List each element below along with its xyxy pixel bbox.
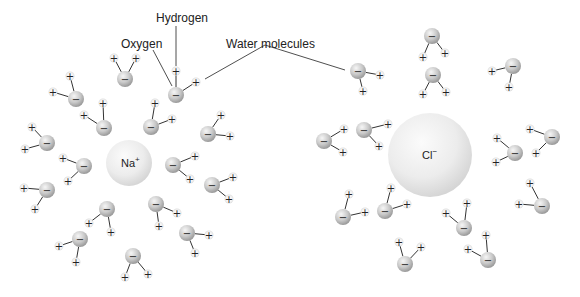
water-molecule: −++: [442, 198, 473, 237]
hydrogen-positive-charge-icon: +: [532, 148, 540, 159]
hydrogen-positive-charge-icon: +: [28, 122, 36, 133]
hydrogen-positive-charge-icon: +: [151, 98, 159, 109]
oxygen-negative-charge-icon: −: [511, 148, 519, 159]
oxygen-negative-charge-icon: −: [204, 129, 212, 140]
hydrogen-positive-charge-icon: +: [110, 53, 118, 64]
hydrogen-positive-charge-icon: +: [225, 194, 233, 205]
hydrogen-positive-charge-icon: +: [229, 172, 237, 183]
hydrogen-positive-charge-icon: +: [492, 157, 500, 168]
hydrogen-positive-charge-icon: +: [403, 199, 411, 210]
hydrogen-positive-charge-icon: +: [191, 248, 199, 259]
oxygen-negative-charge-icon: −: [172, 90, 180, 101]
oxygen-negative-charge-icon: −: [320, 136, 328, 147]
oxygen-negative-charge-icon: −: [43, 185, 51, 196]
water-molecule: −++: [168, 66, 201, 104]
oxygen-negative-charge-icon: −: [339, 212, 347, 223]
water-molecules-label: Water molecules: [226, 37, 315, 51]
hydrogen-positive-charge-icon: +: [361, 207, 369, 218]
hydrogen-positive-charge-icon: +: [441, 48, 449, 59]
covalent-bond: [28, 145, 39, 148]
water-molecule: −++: [80, 98, 113, 137]
hydrogen-positive-charge-icon: +: [121, 272, 129, 283]
water-molecule: −++: [59, 153, 93, 187]
hydrogen-positive-charge-icon: +: [49, 87, 57, 98]
hydrogen-positive-charge-icon: +: [384, 119, 392, 130]
water-molecule: −++: [204, 172, 238, 205]
water-molecule: −++: [526, 124, 561, 159]
hydrogen-positive-charge-icon: +: [72, 257, 80, 268]
sodium-ion: Na+: [106, 140, 152, 186]
water-molecule: −++: [419, 67, 451, 100]
covalent-bond: [522, 204, 534, 205]
water-molecule: −++: [419, 28, 450, 63]
hydrogen-positive-charge-icon: +: [505, 82, 513, 93]
hydrogen-positive-charge-icon: +: [80, 110, 88, 121]
water-molecule: −++: [121, 248, 153, 283]
hydrogen-positive-charge-icon: +: [172, 66, 180, 77]
water-molecule: −++: [488, 58, 522, 93]
hydrogen-positive-charge-icon: +: [186, 174, 194, 185]
hydrogen-positive-charge-icon: +: [20, 183, 28, 194]
hydrogen-positive-charge-icon: +: [21, 144, 29, 155]
covalent-bond: [533, 130, 544, 134]
hydrogen-positive-charge-icon: +: [419, 89, 427, 100]
water-molecule: −++: [49, 71, 85, 108]
hydrogen-positive-charge-icon: +: [55, 241, 63, 252]
oxygen-negative-charge-icon: −: [548, 132, 556, 143]
oxygen-negative-charge-icon: −: [121, 74, 129, 85]
oxygen-negative-charge-icon: −: [429, 70, 437, 81]
chloride-ion: Cl−: [388, 113, 472, 197]
hydrogen-positive-charge-icon: +: [59, 153, 67, 164]
water-molecule: −++: [143, 98, 177, 136]
hydrogen-label: Hydrogen: [156, 11, 208, 25]
oxygen-negative-charge-icon: −: [43, 138, 51, 149]
hydrogen-positive-charge-icon: +: [345, 189, 353, 200]
oxygen-negative-charge-icon: −: [360, 125, 368, 136]
water-molecule: −++: [350, 63, 385, 97]
oxygen-negative-charge-icon: −: [80, 161, 88, 172]
sodium-symbol: Na: [121, 157, 136, 169]
hydrogen-positive-charge-icon: +: [442, 87, 450, 98]
covalent-bond: [62, 242, 72, 245]
hydrogen-positive-charge-icon: +: [463, 198, 471, 209]
hydrogen-positive-charge-icon: +: [464, 244, 472, 255]
oxygen-negative-charge-icon: −: [147, 122, 155, 133]
hydrogen-positive-charge-icon: +: [99, 98, 107, 109]
hydrogen-positive-charge-icon: +: [107, 227, 115, 238]
hydrogen-positive-charge-icon: +: [515, 199, 523, 210]
hydrogen-positive-charge-icon: +: [493, 133, 501, 144]
hydrogen-positive-charge-icon: +: [226, 131, 234, 142]
hydrogen-positive-charge-icon: +: [442, 208, 450, 219]
hydrogen-positive-charge-icon: +: [376, 70, 384, 81]
hydrogen-positive-charge-icon: +: [217, 110, 225, 121]
oxygen-negative-charge-icon: −: [460, 223, 468, 234]
hydrogen-positive-charge-icon: +: [168, 114, 176, 125]
hydrogen-positive-charge-icon: +: [526, 178, 534, 189]
oxygen-negative-charge-icon: −: [538, 201, 546, 212]
hydrogen-positive-charge-icon: +: [173, 208, 181, 219]
water-molecule: −++: [515, 178, 551, 215]
oxygen-negative-charge-icon: −: [509, 61, 517, 72]
oxygen-negative-charge-icon: −: [72, 94, 80, 105]
water-molecule: −++: [492, 133, 524, 168]
hydrogen-positive-charge-icon: +: [191, 151, 199, 162]
oxygen-negative-charge-icon: −: [208, 180, 216, 191]
hydrogen-positive-charge-icon: +: [417, 242, 425, 253]
hydrogen-positive-charge-icon: +: [205, 230, 213, 241]
oxygen-negative-charge-icon: −: [183, 228, 191, 239]
hydrogen-positive-charge-icon: +: [387, 183, 395, 194]
oxygen-negative-charge-icon: −: [354, 66, 362, 77]
sodium-charge: +: [135, 155, 140, 164]
oxygen-negative-charge-icon: −: [401, 259, 409, 270]
hydrogen-positive-charge-icon: +: [482, 230, 490, 241]
covalent-bond: [465, 206, 467, 220]
water-molecules: −++−++−++−++−++−++−++−++−++−++−++−++−++−…: [20, 28, 561, 283]
covalent-bond: [471, 251, 481, 256]
hydrogen-positive-charge-icon: +: [375, 141, 383, 152]
covalent-bond: [56, 93, 68, 97]
hydrogen-positive-charge-icon: +: [64, 176, 72, 187]
oxygen-negative-charge-icon: −: [428, 31, 436, 42]
covalent-bond: [27, 188, 39, 189]
water-molecule: −++: [395, 237, 426, 273]
hydrogen-positive-charge-icon: +: [144, 269, 152, 280]
